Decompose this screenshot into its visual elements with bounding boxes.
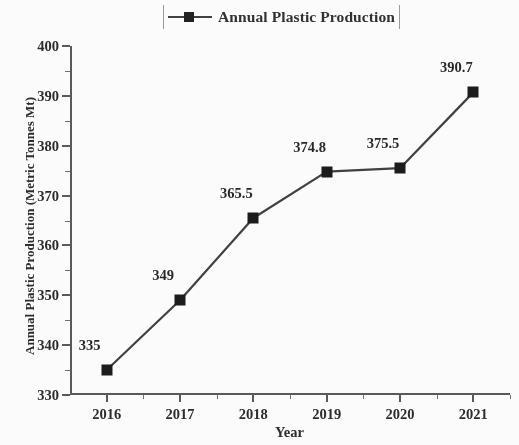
x-tick: [326, 395, 328, 402]
data-point-marker: [175, 295, 186, 306]
y-tick-label: 330: [37, 387, 59, 404]
y-tick-label: 350: [37, 287, 59, 304]
y-tick-label: 360: [37, 237, 59, 254]
y-tick: [62, 95, 70, 97]
y-tick: [62, 344, 70, 346]
y-tick: [62, 394, 70, 396]
data-point-marker: [101, 365, 112, 376]
legend-entry-label: Annual Plastic Production: [218, 8, 395, 26]
x-tick: [179, 395, 181, 402]
x-tick: [106, 395, 108, 402]
x-tick-minor: [363, 395, 364, 399]
x-tick-minor: [510, 395, 511, 399]
data-point-marker: [248, 213, 259, 224]
data-point-marker: [395, 163, 406, 174]
y-axis-title: Annual Plastic Production (Metric Tonnes…: [22, 46, 38, 406]
chart-legend: Annual Plastic Production: [163, 5, 400, 29]
data-point-label: 349: [152, 267, 174, 284]
x-tick: [472, 395, 474, 402]
y-tick: [62, 145, 70, 147]
y-tick: [62, 294, 70, 296]
x-tick-label: 2016: [92, 406, 121, 423]
x-tick-label: 2018: [239, 406, 268, 423]
y-tick-label: 370: [37, 187, 59, 204]
x-tick-label: 2019: [312, 406, 341, 423]
y-tick-label: 340: [37, 337, 59, 354]
data-point-label: 375.5: [367, 135, 400, 152]
chart-figure: Annual Plastic Production Annual Plastic…: [0, 0, 519, 445]
y-tick-label: 390: [37, 87, 59, 104]
x-tick-minor: [143, 395, 144, 399]
x-tick-label: 2020: [386, 406, 415, 423]
data-point-marker: [468, 87, 479, 98]
data-point-label: 390.7: [440, 59, 473, 76]
data-point-label: 335: [79, 337, 101, 354]
y-tick-label: 380: [37, 137, 59, 154]
x-tick-label: 2017: [166, 406, 195, 423]
data-point-label: 365.5: [220, 185, 253, 202]
series-line: [70, 46, 510, 395]
plot-area: 330340350360370380390400 201620172018201…: [70, 46, 510, 395]
y-tick: [62, 45, 70, 47]
legend-line-marker-icon: [168, 10, 212, 24]
data-point-marker: [321, 166, 332, 177]
data-point-label: 374.8: [293, 139, 326, 156]
x-tick-label: 2021: [459, 406, 488, 423]
x-axis-title: Year: [0, 424, 519, 441]
x-tick-minor: [437, 395, 438, 399]
x-tick-minor: [217, 395, 218, 399]
y-tick: [62, 244, 70, 246]
y-tick-label: 400: [37, 38, 59, 55]
x-tick: [399, 395, 401, 402]
x-tick-minor: [290, 395, 291, 399]
y-tick: [62, 195, 70, 197]
x-tick: [252, 395, 254, 402]
